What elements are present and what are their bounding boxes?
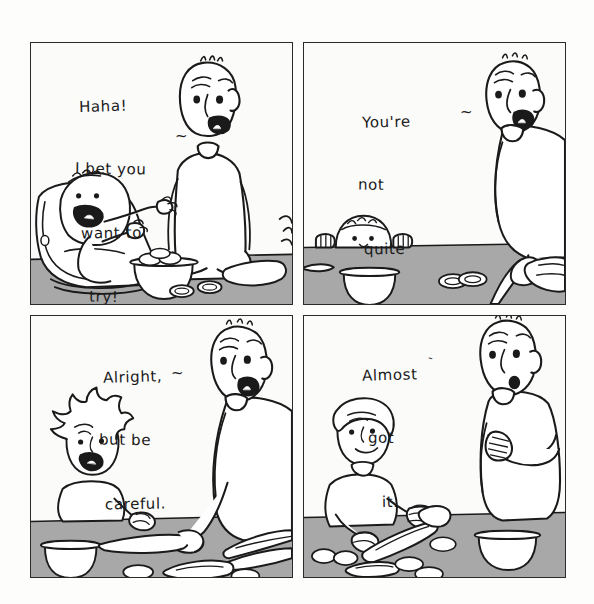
- slice-2: [459, 272, 487, 286]
- adult-collar: [226, 394, 248, 410]
- slice-3: [231, 569, 259, 577]
- adult-eye-right: [244, 355, 251, 363]
- panel-1-artwork: [31, 43, 292, 304]
- comic-page: Haha! I bet you want to try! ~: [0, 0, 594, 604]
- toddler-eye-left: [352, 236, 357, 241]
- adult-eye-right: [519, 89, 526, 97]
- slice-5: [415, 567, 443, 577]
- comic-panel-1: Haha! I bet you want to try! ~: [30, 42, 293, 305]
- comic-panel-2: You're not quite ready yet. ~: [303, 42, 566, 305]
- panel-3-artwork: [31, 316, 292, 577]
- baby-hand-lower: [127, 223, 144, 238]
- bowl-rim: [41, 541, 101, 549]
- slice-6: [430, 537, 456, 551]
- child-body: [325, 474, 397, 526]
- adult-collar: [198, 142, 219, 158]
- bowl: [45, 546, 97, 577]
- child-body: [58, 481, 124, 521]
- side-item: [304, 264, 334, 271]
- adult-torso: [495, 126, 565, 259]
- slice-2: [334, 551, 358, 565]
- adult-eye-left: [489, 351, 496, 359]
- adult-ear: [530, 351, 541, 373]
- slice-2: [198, 281, 222, 293]
- adult-head: [480, 321, 536, 395]
- slice-1: [170, 285, 194, 297]
- bowl-rim: [340, 268, 400, 276]
- adult-mouth: [509, 377, 519, 389]
- child-eye-left: [349, 430, 354, 435]
- baby-hand-upper: [157, 200, 173, 214]
- adult-torso: [213, 397, 292, 540]
- adult-eye-right: [216, 95, 223, 103]
- slice-1: [123, 565, 153, 577]
- adult-eye-left: [220, 357, 227, 365]
- adult-eye-left: [193, 96, 200, 104]
- bouncer-knob: [41, 236, 49, 246]
- adult-collar: [493, 388, 515, 404]
- child-eye-left: [78, 439, 83, 444]
- adult-mouth: [209, 116, 230, 133]
- adult-ear: [261, 357, 272, 379]
- comic-panel-3: Alright, but be careful. ~: [30, 315, 293, 578]
- adult-eye-right: [513, 350, 520, 358]
- baby-eye-left: [76, 193, 81, 198]
- panel-2-artwork: [304, 43, 565, 304]
- baby-eye-right: [94, 193, 99, 198]
- adult-collar: [501, 125, 523, 141]
- egg-3: [150, 248, 170, 258]
- child-eye-right: [99, 438, 104, 443]
- adult-eye-left: [495, 91, 502, 99]
- comic-panel-4: Almost got it. `: [303, 315, 566, 578]
- slice-1: [312, 549, 336, 563]
- panel-4-artwork: [304, 316, 565, 577]
- adult-ear: [533, 90, 544, 112]
- child-eye-right: [370, 429, 375, 434]
- comic-panel-grid: Haha! I bet you want to try! ~: [30, 42, 566, 578]
- toddler-eye-right: [369, 236, 374, 241]
- bowl-rim: [475, 531, 540, 539]
